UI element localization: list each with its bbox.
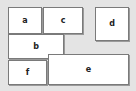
box-e-label: e <box>86 66 91 74</box>
box-d: d <box>95 7 129 41</box>
box-c-label: c <box>61 17 66 25</box>
box-c: c <box>43 7 83 34</box>
box-a-label: a <box>22 17 27 25</box>
box-f: f <box>8 60 47 85</box>
box-f-label: f <box>26 69 29 77</box>
box-b-label: b <box>33 43 39 51</box>
box-d-label: d <box>109 20 115 28</box>
box-e: e <box>48 54 129 85</box>
box-a: a <box>8 7 42 34</box>
